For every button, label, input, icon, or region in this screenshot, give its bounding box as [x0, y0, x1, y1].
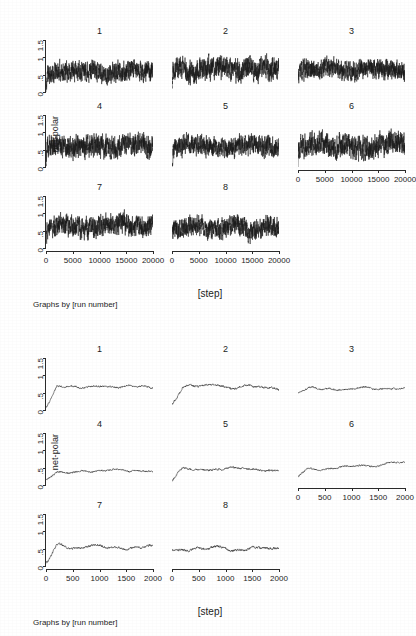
x-axis-tick: [199, 251, 200, 254]
x-axis-tick: [172, 251, 173, 254]
x-axis-tick: [100, 251, 101, 254]
series-plot-run-5: [172, 115, 279, 167]
panel-title: 2: [172, 344, 279, 354]
panel-run-4: 40.511.5: [46, 433, 153, 485]
x-axis-tick: [405, 488, 406, 491]
x-axis-tick-label: 20000: [142, 256, 164, 265]
panel-run-8: 80500100015002000: [172, 514, 279, 566]
x-axis-tick: [73, 251, 74, 254]
x-axis-tick-label: 15000: [241, 256, 263, 265]
x-axis-tick-label: 1500: [369, 493, 387, 502]
series-plot-run-6: [298, 115, 405, 167]
x-axis-tick-label: 1000: [343, 493, 361, 502]
x-axis: 0500100015002000: [172, 569, 279, 587]
panel-title: 8: [172, 182, 279, 192]
panel-title: 1: [46, 26, 153, 36]
x-axis-tick: [226, 251, 227, 254]
x-axis-tick: [252, 251, 253, 254]
x-axis-title: [step]: [150, 288, 270, 299]
panel-title: 7: [46, 500, 153, 510]
y-axis-tick-label: 1.5: [37, 196, 45, 207]
figure-bottom: net-polar [step] Graphs by [run number] …: [0, 318, 416, 636]
panel-run-3: 3: [298, 358, 405, 410]
x-axis-tick-label: 0: [170, 256, 174, 265]
x-axis-tick-label: 10000: [340, 175, 362, 184]
x-axis-tick: [325, 488, 326, 491]
y-axis-tick-label: .5: [37, 150, 45, 157]
series-plot-run-6: [298, 433, 405, 485]
x-axis-tick-label: 1500: [243, 574, 261, 583]
y-axis-tick-label: 1.5: [37, 433, 45, 444]
x-axis-tick: [46, 251, 47, 254]
series-plot-run-3: [298, 358, 405, 410]
series-plot-run-4: [46, 433, 153, 485]
panel-title: 4: [46, 101, 153, 111]
series-plot-run-3: [298, 40, 405, 92]
y-axis: 0.511.5: [20, 433, 46, 485]
x-axis-tick: [153, 251, 154, 254]
panel-run-1: 10.511.5: [46, 40, 153, 92]
x-axis-tick: [73, 569, 74, 572]
series-plot-run-5: [172, 433, 279, 485]
y-axis-tick-label: 1.5: [37, 358, 45, 369]
panel-run-6: 605000100001500020000: [298, 115, 405, 167]
x-axis-tick-label: 15000: [367, 175, 389, 184]
x-axis-tick: [100, 569, 101, 572]
panel-run-7: 70.511.505000100001500020000: [46, 196, 153, 248]
y-axis-tick-label: 1: [37, 132, 45, 136]
x-axis-tick: [153, 569, 154, 572]
x-axis-tick-label: 1000: [217, 574, 235, 583]
x-axis: 05000100001500020000: [46, 251, 153, 269]
x-axis-tick: [298, 170, 299, 173]
y-axis-tick-label: 1: [37, 57, 45, 61]
figure-bottom-canvas: net-polar [step] Graphs by [run number] …: [0, 318, 416, 636]
x-axis-tick: [325, 170, 326, 173]
x-axis-tick-label: 15000: [115, 256, 137, 265]
x-axis-tick-label: 1500: [117, 574, 135, 583]
figure-top: net-polar [step] Graphs by [run number] …: [0, 0, 416, 318]
figure-top-canvas: net-polar [step] Graphs by [run number] …: [0, 0, 416, 318]
y-axis: 0.511.5: [20, 40, 46, 92]
x-axis: 05000100001500020000: [298, 170, 405, 188]
x-axis-tick: [378, 488, 379, 491]
series-plot-run-1: [46, 40, 153, 92]
y-axis-tick-label: 0: [37, 248, 45, 252]
y-axis: 0.511.5: [20, 514, 46, 566]
y-axis-tick-label: 0: [37, 92, 45, 96]
panel-title: 5: [172, 419, 279, 429]
y-axis-tick-label: .5: [37, 231, 45, 238]
x-axis-tick-label: 0: [44, 574, 48, 583]
panel-title: 3: [298, 26, 405, 36]
y-axis-tick-label: 1.5: [37, 115, 45, 126]
x-axis-tick: [279, 251, 280, 254]
x-axis-tick-label: 500: [192, 574, 205, 583]
series-plot-run-4: [46, 115, 153, 167]
x-axis-tick: [126, 569, 127, 572]
y-axis: 0.511.5: [20, 358, 46, 410]
x-axis-tick-label: 5000: [316, 175, 334, 184]
panel-title: 5: [172, 101, 279, 111]
panel-title: 2: [172, 26, 279, 36]
x-axis: 0500100015002000: [46, 569, 153, 587]
x-axis-tick-label: 1000: [91, 574, 109, 583]
panel-run-8: 805000100001500020000: [172, 196, 279, 248]
y-axis-tick-label: 1: [37, 375, 45, 379]
x-axis-tick-label: 20000: [268, 256, 290, 265]
x-axis-tick-label: 5000: [64, 256, 82, 265]
x-axis: 05000100001500020000: [172, 251, 279, 269]
panel-run-7: 70.511.50500100015002000: [46, 514, 153, 566]
figure-note: Graphs by [run number]: [33, 618, 117, 627]
y-axis-tick-label: .5: [37, 549, 45, 556]
x-axis-tick: [226, 569, 227, 572]
panel-run-1: 10.511.5: [46, 358, 153, 410]
y-axis-tick-label: 1.5: [37, 514, 45, 525]
y-axis-tick-label: 1: [37, 531, 45, 535]
panel-run-5: 5: [172, 433, 279, 485]
series-plot-run-7: [46, 196, 153, 248]
x-axis-tick-label: 2000: [396, 493, 414, 502]
x-axis: 0500100015002000: [298, 488, 405, 506]
series-plot-run-8: [172, 196, 279, 248]
y-axis: 0.511.5: [20, 115, 46, 167]
x-axis-tick-label: 0: [44, 256, 48, 265]
panel-run-3: 3: [298, 40, 405, 92]
